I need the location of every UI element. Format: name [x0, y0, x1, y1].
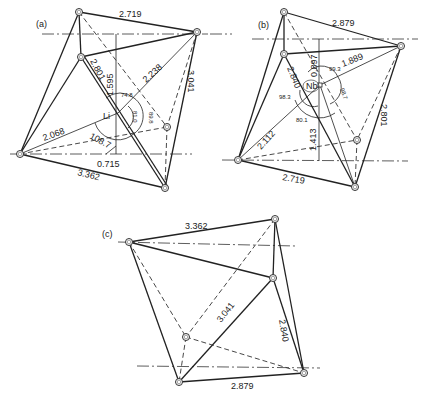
angle-label: 108.7: [88, 131, 113, 150]
edge-length: 3.041: [215, 300, 237, 324]
angle-label: 81.0: [132, 111, 138, 123]
atom-node: [164, 124, 171, 131]
distance-label: 1.413: [308, 128, 318, 151]
edge-length: 2.112: [255, 128, 277, 151]
atom-node: [270, 275, 277, 282]
panel-b: (b) 2.879 1.889 2.801 2.840 2.112 2.719 …: [210, 9, 418, 191]
atom-node: [398, 43, 405, 50]
panel-label: (c): [102, 229, 113, 239]
panel-label: (a): [36, 19, 47, 29]
angle-label: 98.3: [279, 94, 291, 100]
angle-label: 99.3: [329, 66, 341, 72]
atom-node: [301, 370, 308, 377]
edge-length: 2.840: [277, 319, 291, 343]
edge-length: 3.362: [185, 221, 208, 231]
center-atom-label: Nb: [306, 81, 318, 91]
distance-label: 0.715: [97, 159, 120, 169]
distance-label: 1.595: [105, 73, 115, 96]
atom-node: [162, 185, 169, 192]
panel-a: (a) 2.719 2.238 3.041 2.801 2.068 3.362 …: [10, 9, 208, 192]
atom-node: [352, 184, 359, 191]
edge-length: 2.719: [119, 9, 142, 19]
atom-node: [78, 54, 85, 61]
edge-length: 2.238: [141, 62, 164, 85]
panel-label: (b): [258, 20, 269, 30]
edge-length: 2.801: [379, 104, 389, 127]
reference-line-bottom: [137, 366, 320, 368]
edge-length: 2.840: [285, 65, 303, 90]
angle-label: 74.8: [121, 92, 133, 98]
octahedra-diagram: (a) 2.719 2.238 3.041 2.801 2.068 3.362 …: [0, 0, 421, 394]
atom-node: [194, 29, 201, 36]
atom-node: [76, 9, 83, 16]
center-atom-label: Li: [103, 111, 110, 121]
edge-length: 3.041: [186, 70, 196, 93]
atom-node: [281, 51, 288, 58]
panel-c: (c) 3.362 3.041 2.840 2.879: [102, 216, 320, 392]
atom-node: [176, 379, 183, 386]
edge-length: 3.362: [77, 167, 101, 182]
atom-node: [183, 334, 190, 341]
distance-label: 0.897: [309, 54, 319, 77]
atom-node: [126, 239, 133, 246]
atom-node: [272, 216, 279, 223]
atom-node: [354, 137, 361, 144]
reference-line-bottom: [222, 160, 408, 161]
angle-label: 80.1: [296, 117, 308, 123]
atom-node: [235, 157, 242, 164]
atom-node: [281, 9, 288, 16]
atom-node: [17, 151, 24, 158]
edge-length: 2.879: [332, 18, 355, 28]
angle-label: 98.7: [339, 87, 349, 101]
edge-length: 2.879: [231, 381, 254, 391]
edge-length: 1.889: [340, 51, 365, 69]
angle-label: 89.8: [148, 112, 154, 124]
